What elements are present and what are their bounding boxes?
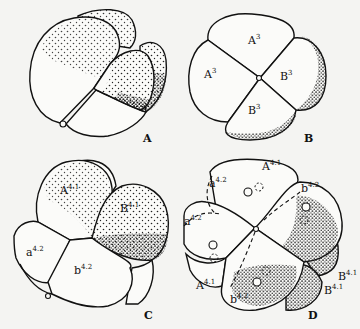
panel-label-a: A [142, 132, 152, 145]
polar-body [254, 227, 259, 232]
panel-label-b: B [304, 132, 313, 145]
label-d-lower-left: A4.1 [195, 278, 215, 292]
label-d-bottom-right: B4.1 [324, 283, 343, 297]
panel-label-d: D [308, 309, 318, 322]
panel-d: A4.1 a4.2 b4.2 a4.2 A4.1 b4.2 B4.1 B4.1 … [184, 159, 357, 322]
panel-label-c: C [144, 309, 153, 322]
label-d-right: B4.1 [338, 269, 357, 283]
polar-body [46, 294, 51, 299]
polar-body [257, 76, 262, 81]
embryo-cleavage-figure: A A3 A3 B3 B3 B [0, 0, 360, 329]
panel-a: A [30, 10, 167, 145]
polar-body [60, 121, 66, 127]
panel-c: A4.1 B4.1 a4.2 b4.2 C [14, 160, 168, 322]
panel-b: A3 A3 B3 B3 B [189, 14, 326, 145]
